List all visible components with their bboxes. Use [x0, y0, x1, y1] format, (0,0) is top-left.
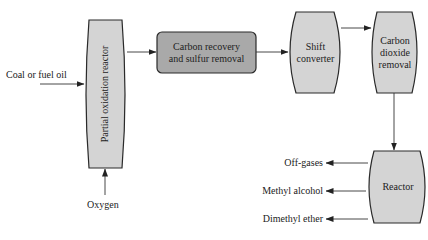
- reactor-label: Reactor: [382, 181, 413, 193]
- co2-removal-line3: removal: [379, 59, 412, 71]
- feed-label: Coal or fuel oil: [6, 69, 67, 80]
- output-dimethyl-ether: Dimethyl ether: [263, 213, 323, 224]
- partial-oxidation-reactor: Partial oxidation reactor: [30, 87, 180, 101]
- oxygen-label: Oxygen: [87, 199, 119, 210]
- co2-removal-line1: Carbon: [380, 35, 409, 47]
- output-off-gases: Off-gases: [284, 157, 323, 168]
- reactor-node: Reactor: [368, 151, 428, 223]
- carbon-recovery-line1: Carbon recovery: [173, 41, 240, 53]
- carbon-recovery-node: Carbon recovery and sulfur removal: [157, 32, 256, 73]
- shift-converter-line1: Shift: [306, 41, 325, 53]
- output-methyl-alcohol: Methyl alcohol: [262, 185, 323, 196]
- partial-oxidation-label: Partial oxidation reactor: [99, 46, 111, 143]
- carbon-recovery-line2: and sulfur removal: [169, 53, 245, 65]
- co2-removal-node: Carbon dioxide removal: [370, 12, 420, 93]
- shift-converter-node: Shift converter: [289, 12, 342, 93]
- shift-converter-line2: converter: [297, 53, 335, 65]
- co2-removal-line2: dioxide: [380, 47, 410, 59]
